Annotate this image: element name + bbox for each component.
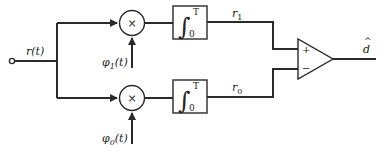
integrator-1: ∫ T 0 <box>173 6 207 41</box>
correlation-receiver-diagram: r(t) × φ1(t) ∫ T 0 r1 × <box>0 0 385 156</box>
svg-text:0: 0 <box>189 29 195 39</box>
svg-text:T: T <box>193 7 199 17</box>
output-r0-label: r0 <box>232 81 242 96</box>
reference-signal-phi1: φ1(t) <box>102 56 128 71</box>
input-label: r(t) <box>26 45 44 58</box>
comparator: + − <box>298 39 333 79</box>
minus-input-label: − <box>302 63 310 74</box>
branch-1: × φ1(t) ∫ T 0 r1 <box>102 6 298 71</box>
reference-signal-phi0: φ0(t) <box>102 132 128 147</box>
input-terminal: r(t) <box>9 45 57 64</box>
integrator-0: ∫ T 0 <box>173 80 207 115</box>
multiply-icon: × <box>127 17 136 30</box>
output-r1-label: r1 <box>232 7 242 22</box>
multiplier-0: × <box>120 86 145 111</box>
output-hat: ^ <box>364 36 372 46</box>
plus-input-label: + <box>302 44 310 55</box>
svg-text:T: T <box>193 81 199 91</box>
svg-text:0: 0 <box>189 103 195 113</box>
multiplier-1: × <box>120 11 145 36</box>
branch-0: × φ0(t) ∫ T 0 r0 <box>102 69 298 147</box>
decision-output: d ^ <box>333 36 376 59</box>
multiply-icon: × <box>127 92 136 105</box>
